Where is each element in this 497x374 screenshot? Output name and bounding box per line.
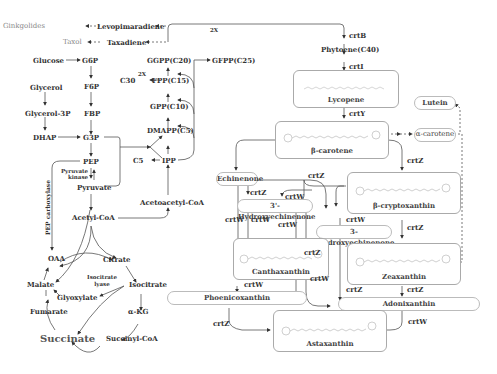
enzyme-crtz-cryptoxanthin: crtZ <box>407 157 423 164</box>
enzyme-crtw-canth-phoenico: crtW <box>244 281 263 288</box>
beta-cryptoxanthin-structure-icon <box>348 177 460 203</box>
node-adonixanthin: Adonixanthin <box>338 297 480 311</box>
node-dhap: DHAP <box>33 134 56 141</box>
node-glucose: Glucose <box>33 57 64 64</box>
node-phytoene: Phytoene(C40) <box>321 46 379 53</box>
node-3-hydroxyechinenone: 3-Hydroxyechinenone <box>316 225 392 239</box>
enzyme-crty: crtY <box>349 110 365 117</box>
node-lutein: Lutein <box>414 96 456 110</box>
box-astaxanthin: Astaxanthin <box>273 310 387 352</box>
node-gfpp: GFPP(C25) <box>212 57 255 64</box>
node-3prime-hydroxyechinenone: 3'-Hydroxyechinenone <box>237 199 313 213</box>
enzyme-crtz-adonix: crtZ <box>346 286 362 293</box>
enzyme-crtz-zeaxanthin: crtZ <box>407 224 423 231</box>
node-f6p: F6P <box>84 83 99 90</box>
node-glyoxylate: Glyoxylate <box>57 294 98 301</box>
enzyme-crti: crtI <box>349 63 363 70</box>
enzyme-crtw-echinenone: crtW <box>225 216 244 223</box>
node-echinenone: Echinenone <box>216 172 258 186</box>
enzyme-crtb: crtB <box>349 32 366 39</box>
enzyme-crtw-astaxanthin: crtW <box>408 318 427 325</box>
label-zeaxanthin: Zeaxanthin <box>348 272 460 281</box>
astaxanthin-structure-icon <box>274 315 386 341</box>
enzyme-crtz-zea-adonix: crtZ <box>407 286 423 293</box>
enzyme-crtz-3p: crtZ <box>250 189 266 196</box>
node-gpp: GPP(C10) <box>150 103 188 110</box>
node-succinate: Succinate <box>40 334 95 344</box>
label-2x-top: 2X <box>210 28 218 34</box>
node-pep: PEP <box>83 158 99 165</box>
label-beta-carotene: β-carotene <box>276 146 388 155</box>
node-c5: C5 <box>133 157 143 164</box>
box-lycopene: Lycopene <box>293 70 399 108</box>
enzyme-pyruvate-kinase: Pyruvate kinase <box>60 168 88 180</box>
node-ginkgolides: Ginkgolides <box>3 23 45 30</box>
box-zeaxanthin: Zeaxanthin <box>347 243 461 285</box>
node-fbp: FBP <box>84 110 100 117</box>
box-beta-carotene: β-carotene <box>275 121 389 159</box>
node-oaa: OAA <box>48 255 65 262</box>
enzyme-crtz-phoenico: crtZ <box>304 249 320 256</box>
enzyme-isocitrate-lyase: Isocitrate lyase <box>86 274 118 288</box>
node-fpp: FPP(C15) <box>152 77 189 84</box>
node-glycerol: Glycerol <box>30 84 62 91</box>
zeaxanthin-structure-icon <box>348 248 460 274</box>
enzyme-pep-carboxylase: PEP carboxylase <box>44 180 51 235</box>
enzyme-crtw-canthaxanthin: crtW <box>251 216 270 223</box>
enzyme-crtz-astaxanthin: crtZ <box>213 320 229 327</box>
node-dmapp: DMAPP(C5) <box>147 127 194 134</box>
node-succinyl-coa: Succinyl-CoA <box>106 335 158 342</box>
enzyme-crtz-echinenone: crtZ <box>308 172 324 179</box>
box-beta-cryptoxanthin: β-cryptoxanthin <box>347 172 461 214</box>
node-taxol: Taxol <box>63 39 82 46</box>
node-phoenicoxanthin: Phoenicoxanthin <box>167 291 307 305</box>
node-taxadiene: Taxadiene <box>107 39 146 46</box>
node-g3p: G3P <box>83 134 99 141</box>
node-g6p: G6P <box>82 57 98 64</box>
node-pyruvate: Pyruvate <box>77 184 111 191</box>
node-glycerol-3p: Glycerol-3P <box>25 110 70 117</box>
node-levopimaradiene: Levopimaradiene <box>97 23 164 30</box>
label-beta-cryptoxanthin: β-cryptoxanthin <box>348 201 460 210</box>
enzyme-crtw-3hydroxy: crtW <box>346 216 365 223</box>
node-fumarate: Fumarate <box>30 308 68 315</box>
label-lycopene: Lycopene <box>294 95 398 104</box>
node-malate: Malate <box>27 281 54 288</box>
node-alpha-carotene: α-carotene <box>414 128 456 142</box>
node-akg: α-KG <box>128 308 148 315</box>
label-astaxanthin: Astaxanthin <box>274 339 386 348</box>
enzyme-crtw-phoenico: crtW <box>278 221 297 228</box>
node-ipp: IPP <box>162 157 176 164</box>
node-acetyl-coa: Acetyl-CoA <box>72 214 115 221</box>
node-ggpp: GGPP(C20) <box>147 57 191 64</box>
node-citrate: Citrate <box>103 256 130 263</box>
node-isocitrate: Isocitrate <box>129 281 167 288</box>
enzyme-crtw-adonixanthin: crtW <box>310 275 329 282</box>
node-c30: C30 <box>120 77 135 84</box>
node-acetoacetyl-coa: Acetoacetyl-CoA <box>140 199 204 206</box>
label-2x-fpp: 2X <box>138 72 146 78</box>
